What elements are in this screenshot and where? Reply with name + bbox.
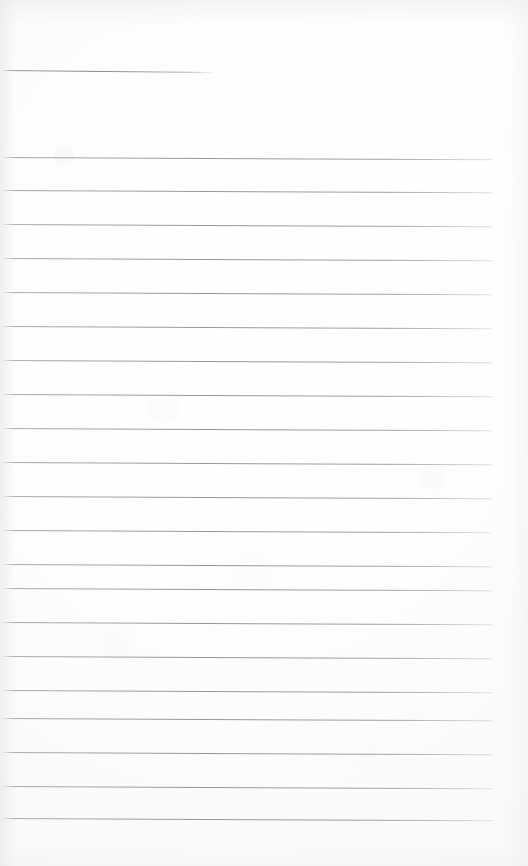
- writing-area[interactable]: [2, 80, 493, 830]
- notebook-page: [0, 0, 528, 866]
